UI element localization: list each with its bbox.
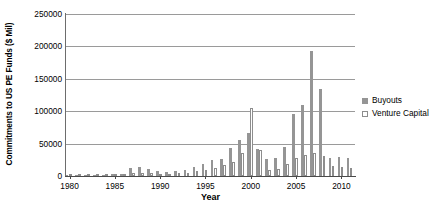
x-tick-label: 2010 bbox=[321, 181, 361, 191]
legend-swatch-icon bbox=[362, 111, 368, 117]
chart-legend: BuyoutsVenture Capital bbox=[362, 94, 440, 120]
bar-venture-capital bbox=[250, 108, 253, 176]
y-tick-label: 50000 bbox=[16, 140, 62, 148]
bar-group bbox=[219, 14, 228, 176]
bar-venture-capital bbox=[341, 167, 344, 176]
bar-venture-capital bbox=[277, 169, 280, 176]
x-tick-mark bbox=[341, 176, 342, 179]
bar-series-container bbox=[65, 14, 355, 176]
bar-venture-capital bbox=[232, 162, 235, 176]
bar-group bbox=[246, 14, 255, 176]
bar-group bbox=[255, 14, 264, 176]
bar-group bbox=[165, 14, 174, 176]
bar-venture-capital bbox=[332, 166, 335, 176]
chart-figure: Commitments to US PE Funds ($ Mil) 05000… bbox=[0, 0, 440, 212]
bar-group bbox=[92, 14, 101, 176]
bar-group bbox=[319, 14, 328, 176]
x-tick-label: 1995 bbox=[185, 181, 225, 191]
bar-group bbox=[192, 14, 201, 176]
x-tick-mark bbox=[296, 176, 297, 179]
x-tick-label: 2005 bbox=[276, 181, 316, 191]
bar-group bbox=[210, 14, 219, 176]
bar-group bbox=[228, 14, 237, 176]
legend-item: Venture Capital bbox=[362, 107, 440, 120]
plot-area bbox=[65, 14, 355, 176]
bar-group bbox=[264, 14, 273, 176]
bar-venture-capital bbox=[313, 153, 316, 176]
bar-group bbox=[283, 14, 292, 176]
y-axis-label: Commitments to US PE Funds ($ Mil) bbox=[3, 6, 15, 182]
bar-group bbox=[128, 14, 137, 176]
bar-group bbox=[237, 14, 246, 176]
x-tick-label: 2000 bbox=[231, 181, 271, 191]
x-tick-mark bbox=[70, 176, 71, 179]
x-tick-label: 1990 bbox=[140, 181, 180, 191]
bar-venture-capital bbox=[304, 155, 307, 176]
bar-group bbox=[292, 14, 301, 176]
x-tick-mark bbox=[160, 176, 161, 179]
bar-group bbox=[201, 14, 210, 176]
x-tick-mark bbox=[205, 176, 206, 179]
bar-venture-capital bbox=[241, 153, 244, 176]
bar-group bbox=[174, 14, 183, 176]
y-tick-label: 100000 bbox=[16, 107, 62, 115]
bar-group bbox=[119, 14, 128, 176]
bar-venture-capital bbox=[223, 165, 226, 176]
y-tick-label: 200000 bbox=[16, 42, 62, 50]
x-tick-label: 1980 bbox=[50, 181, 90, 191]
bar-group bbox=[183, 14, 192, 176]
bar-group bbox=[156, 14, 165, 176]
bar-venture-capital bbox=[286, 164, 289, 176]
y-tick-label: 250000 bbox=[16, 10, 62, 18]
y-axis-line bbox=[65, 13, 66, 177]
x-axis-label: Year bbox=[65, 192, 356, 202]
legend-label: Venture Capital bbox=[372, 109, 429, 118]
bar-group bbox=[328, 14, 337, 176]
bar-group bbox=[346, 14, 355, 176]
bar-group bbox=[74, 14, 83, 176]
legend-label: Buyouts bbox=[372, 96, 402, 105]
legend-swatch-icon bbox=[362, 98, 368, 104]
y-tick-label: 150000 bbox=[16, 75, 62, 83]
x-tick-mark bbox=[251, 176, 252, 179]
bar-group bbox=[337, 14, 346, 176]
bar-group bbox=[101, 14, 110, 176]
bar-group bbox=[147, 14, 156, 176]
bar-group bbox=[301, 14, 310, 176]
x-tick-label: 1985 bbox=[95, 181, 135, 191]
bar-group bbox=[110, 14, 119, 176]
bar-venture-capital bbox=[350, 168, 353, 176]
legend-item: Buyouts bbox=[362, 94, 440, 107]
bar-group bbox=[273, 14, 282, 176]
bar-group bbox=[65, 14, 74, 176]
bar-group bbox=[138, 14, 147, 176]
bar-venture-capital bbox=[214, 168, 217, 176]
bar-venture-capital bbox=[259, 150, 262, 176]
bar-group bbox=[83, 14, 92, 176]
bar-group bbox=[310, 14, 319, 176]
x-tick-mark bbox=[115, 176, 116, 179]
bar-venture-capital bbox=[323, 156, 326, 176]
bar-venture-capital bbox=[295, 158, 298, 176]
